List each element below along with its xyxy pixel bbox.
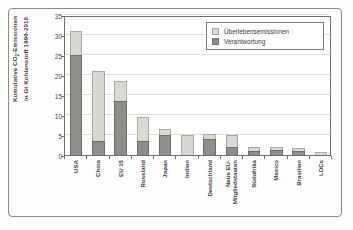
bar-segment-ueberlebensemissionen — [114, 81, 127, 101]
bar-segment-verantwortung — [114, 101, 127, 155]
x-axis-tick-mark — [109, 156, 110, 159]
gridline — [65, 14, 330, 15]
bar-segment-ueberlebensemissionen — [181, 135, 194, 155]
legend-swatch-ueberlebensemissionen — [212, 28, 219, 35]
x-axis-tick-label: China — [94, 160, 101, 230]
y-axis-tick-mark — [61, 16, 64, 17]
bar-segment-verantwortung — [248, 151, 261, 155]
bar-column — [159, 129, 172, 155]
bar-column — [292, 148, 305, 155]
bar-segment-verantwortung — [226, 147, 239, 155]
bar-segment-verantwortung — [92, 141, 105, 155]
x-axis-tick-label: LDCs — [317, 160, 324, 230]
legend-item: Überlebensemissionen — [212, 26, 319, 36]
bar-column — [181, 135, 194, 155]
bar-segment-verantwortung — [203, 139, 216, 155]
x-axis-tick-mark — [220, 156, 221, 159]
y-axis-title: Kumulative CO2-Emissionen in Gt Kohlenst… — [3, 0, 37, 123]
bar-column — [226, 135, 239, 155]
bar-column — [92, 71, 105, 155]
y-axis-tick-mark — [61, 96, 64, 97]
y-axis-tick-mark — [61, 136, 64, 137]
bar-chart: Kumulative CO2-Emissionen in Gt Kohlenst… — [0, 0, 353, 230]
bar-column — [114, 81, 127, 155]
bar-segment-verantwortung — [270, 150, 283, 155]
y-axis-title-part1: Kumulative CO — [11, 56, 18, 102]
y-axis-title-part2: -Emissionen — [11, 16, 18, 54]
x-axis-tick-label: Brasilien — [295, 160, 302, 230]
bar-segment-verantwortung — [159, 135, 172, 155]
bar-column — [70, 31, 83, 155]
legend-swatch-verantwortung — [212, 38, 219, 45]
bar-segment-verantwortung — [137, 141, 150, 155]
y-axis-tick-mark — [61, 76, 64, 77]
legend-item: Verantwortung — [212, 36, 319, 46]
y-axis-tick-mark — [61, 36, 64, 37]
x-axis-tick-label: Mexico — [272, 160, 279, 230]
y-axis-title-subscript: 2 — [14, 54, 19, 57]
legend-label-ueberlebensemissionen: Überlebensemissionen — [224, 28, 289, 35]
bar-segment-verantwortung — [292, 151, 305, 155]
y-axis-tick-label: 0 — [40, 153, 62, 160]
y-axis-tick-label: 35 — [40, 13, 62, 20]
x-axis-tick-label: Japan — [161, 160, 168, 230]
bar-segment-ueberlebensemissionen — [70, 31, 83, 55]
x-axis-tick-mark — [264, 156, 265, 159]
x-axis-tick-mark — [64, 156, 65, 159]
y-axis-tick-label: 30 — [40, 33, 62, 40]
bar-segment-ueberlebensemissionen — [226, 135, 239, 147]
x-axis-tick-mark — [331, 156, 332, 159]
x-axis-tick-mark — [198, 156, 199, 159]
x-axis-tick-label: USA — [72, 160, 79, 230]
bar-column — [270, 147, 283, 155]
chart-page: Kumulative CO2-Emissionen in Gt Kohlenst… — [0, 0, 353, 230]
y-axis-tick-label: 5 — [40, 133, 62, 140]
bar-column — [137, 117, 150, 155]
bar-segment-verantwortung — [70, 55, 83, 155]
x-axis-tick-label: Indien — [183, 160, 190, 230]
bar-column — [203, 134, 216, 155]
x-axis-tick-label: EU 15 — [117, 160, 124, 230]
x-axis-tick-mark — [309, 156, 310, 159]
x-axis-tick-mark — [242, 156, 243, 159]
x-axis-tick-mark — [287, 156, 288, 159]
y-axis-tick-label: 20 — [40, 73, 62, 80]
y-axis-tick-label: 15 — [40, 93, 62, 100]
y-axis-title-line2: in Gt Kohlenstoff 1990-2010 — [21, 17, 30, 101]
y-axis-tick-mark — [61, 116, 64, 117]
bar-column — [315, 152, 328, 155]
bar-segment-ueberlebensemissionen — [137, 117, 150, 141]
bar-segment-ueberlebensemissionen — [315, 152, 328, 155]
x-axis-tick-label: Neue EU-Mitgliedstaaten — [224, 160, 238, 222]
x-axis-tick-mark — [86, 156, 87, 159]
bar-column — [248, 147, 261, 155]
x-axis-tick-label: Russland — [139, 160, 146, 230]
y-axis-tick-mark — [61, 56, 64, 57]
bar-segment-ueberlebensemissionen — [92, 71, 105, 141]
x-axis-tick-label: Südafrika — [250, 160, 257, 230]
x-axis-tick-label: Deutschland — [206, 160, 213, 230]
x-axis-tick-mark — [175, 156, 176, 159]
y-axis-tick-label: 10 — [40, 113, 62, 120]
y-axis-tick-label: 25 — [40, 53, 62, 60]
x-axis-tick-mark — [131, 156, 132, 159]
chart-legend: Überlebensemissionen Verantwortung — [206, 22, 324, 50]
legend-label-verantwortung: Verantwortung — [224, 38, 265, 45]
x-axis-tick-mark — [153, 156, 154, 159]
